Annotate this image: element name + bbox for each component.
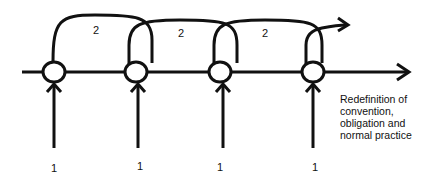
output-note-line-3: obligation and (340, 117, 412, 129)
input-label-1: 1 (51, 163, 57, 174)
output-note-line-1: Redefinition of (340, 93, 412, 105)
input-arrows (47, 84, 320, 148)
node-2 (125, 62, 147, 82)
loop-arc-1 (53, 15, 152, 63)
output-note-line-2: convention, (340, 105, 412, 117)
loop-label-3: 2 (262, 28, 268, 39)
output-note-line-4: normal practice (340, 129, 412, 141)
input-label-2: 1 (137, 161, 143, 172)
input-label-4: 1 (312, 162, 318, 173)
loop-label-1: 2 (93, 25, 99, 36)
loop-arcs (53, 15, 348, 64)
node-1 (43, 62, 65, 82)
node-3 (209, 62, 231, 82)
input-label-3: 1 (217, 162, 223, 173)
loop-label-2: 2 (178, 28, 184, 39)
output-note: Redefinition of convention, obligation a… (340, 93, 412, 141)
node-4 (302, 62, 324, 82)
